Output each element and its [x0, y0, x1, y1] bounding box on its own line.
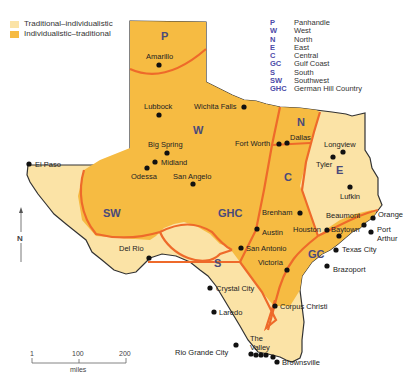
legend-item: Individualistic–traditional	[10, 29, 113, 39]
region-label-gc: GC	[308, 248, 325, 260]
scale-bar	[32, 358, 126, 363]
city-label: Lubbock	[144, 102, 172, 111]
city-label: Brownsville	[282, 358, 320, 367]
region-key: PPanhandle WWest NNorth EEast CCentral G…	[270, 19, 362, 94]
legend-label: Traditional–individualistic	[24, 19, 113, 29]
key-name: German Hill Country	[294, 85, 362, 93]
city-label: Brenham	[262, 208, 292, 217]
city-label: Amarillo	[146, 52, 173, 61]
scale-tick-100: 100	[72, 350, 84, 357]
region-label-p: P	[161, 30, 168, 42]
city-label: Austin	[262, 228, 283, 237]
city-label: Victoria	[258, 258, 283, 267]
legend: Traditional–individualistic Individualis…	[10, 19, 113, 39]
legend-label: Individualistic–traditional	[24, 29, 111, 39]
city-label: Dallas	[290, 133, 311, 142]
city-label: San Antonio	[246, 244, 286, 253]
key-row: GHCGerman Hill Country	[270, 85, 362, 93]
city-label: Lufkin	[340, 192, 360, 201]
city-label: Tyler	[316, 160, 332, 169]
city-label: Corpus Christi	[280, 302, 328, 311]
scale-tick-1: 1	[30, 350, 34, 357]
city-label: Laredo	[219, 308, 242, 317]
city-label: Crystal City	[216, 284, 254, 293]
city-label: Fort Worth	[235, 139, 270, 148]
city-label: Brazoport	[333, 265, 366, 274]
city-label: Houston	[293, 225, 321, 234]
region-label-ghc: GHC	[218, 207, 242, 219]
key-abbr: GHC	[270, 85, 294, 93]
city-label: Big Spring	[148, 140, 183, 149]
city-label: Texas City	[342, 245, 377, 254]
city-label: Longview	[324, 140, 356, 149]
city-label: Del Rio	[119, 244, 144, 253]
region-label-sw: SW	[103, 207, 121, 219]
scale-unit: miles	[70, 366, 86, 373]
city-label: Wichita Falls	[194, 102, 237, 111]
city-label: San Angelo	[173, 172, 211, 181]
city-label: The Valley	[250, 334, 274, 352]
region-label-s: S	[214, 257, 221, 269]
city-label: Midland	[161, 158, 187, 167]
city-label: Baytown	[331, 225, 360, 234]
region-label-w: W	[193, 124, 203, 136]
scale-tick-200: 200	[119, 350, 131, 357]
legend-item: Traditional–individualistic	[10, 19, 113, 29]
city-label: Orange	[378, 210, 403, 219]
region-label-e: E	[336, 164, 343, 176]
key-row: WWest	[270, 27, 362, 35]
region-label-n: N	[297, 116, 305, 128]
legend-swatch-dark	[10, 31, 19, 38]
key-row: PPanhandle	[270, 19, 362, 27]
city-label: El Paso	[35, 160, 61, 169]
compass-label: N	[17, 234, 23, 243]
key-row: NNorth	[270, 36, 362, 44]
key-row: GCGulf Coast	[270, 60, 362, 68]
city-label: Port Arthur	[377, 225, 407, 243]
legend-swatch-light	[10, 21, 19, 28]
city-label: Rio Grande City	[175, 348, 228, 357]
city-label: Beaumont	[326, 211, 360, 220]
region-label-c: C	[284, 171, 292, 183]
city-label: Odessa	[131, 172, 157, 181]
